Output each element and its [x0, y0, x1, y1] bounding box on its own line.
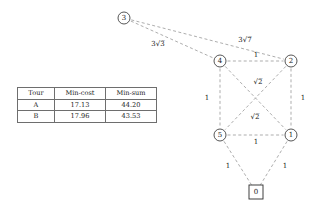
- cell-tour: A: [18, 99, 55, 111]
- results-table: Tour Min-cost Min-sum A 17.13 44.20 B 17…: [17, 87, 157, 123]
- node-label-2: 2: [289, 57, 293, 65]
- cell-min-sum: 43.53: [106, 111, 157, 123]
- column-header-tour: Tour: [18, 88, 55, 100]
- table-row: B 17.96 43.53: [18, 111, 157, 123]
- edge-label-1-0: 1: [283, 162, 287, 170]
- cell-min-cost: 17.13: [55, 99, 106, 111]
- edge-label-4-2: 1: [254, 51, 258, 59]
- table-row: A 17.13 44.20: [18, 99, 157, 111]
- edge-label-4-1: √2̅: [254, 78, 263, 86]
- cell-min-sum: 44.20: [106, 99, 157, 111]
- edge-label-3-2: 3√7̅: [238, 36, 251, 44]
- edge-label-5-1: 1: [254, 138, 258, 146]
- table-body: A 17.13 44.20 B 17.96 43.53: [18, 99, 157, 122]
- edge-label-4-5: 1: [205, 94, 209, 102]
- cell-tour: B: [18, 111, 55, 123]
- edge-label-2-5: √2̅: [251, 113, 260, 121]
- table-header: Tour Min-cost Min-sum: [18, 88, 157, 100]
- node-label-0: 0: [254, 188, 258, 196]
- column-header-min-sum: Min-sum: [106, 88, 157, 100]
- cell-min-cost: 17.96: [55, 111, 106, 123]
- node-label-3: 3: [122, 14, 126, 22]
- edge-label-5-0: 1: [226, 162, 230, 170]
- node-label-4: 4: [218, 57, 223, 65]
- node-label-1: 1: [289, 131, 293, 139]
- node-label-5: 5: [218, 131, 222, 139]
- edge-label-2-1: 1: [301, 94, 305, 102]
- edge-label-3-4: 3√3̅: [151, 40, 164, 48]
- column-header-min-cost: Min-cost: [55, 88, 106, 100]
- graph-edge: [131, 21, 213, 58]
- table-header-row: Tour Min-cost Min-sum: [18, 88, 157, 100]
- edge-labels-group: 3√3̅3√7̅1111√2̅√2̅11: [151, 36, 305, 170]
- figure-container: 342510 3√3̅3√7̅1111√2̅√2̅11 Tour Min-cos…: [0, 0, 317, 211]
